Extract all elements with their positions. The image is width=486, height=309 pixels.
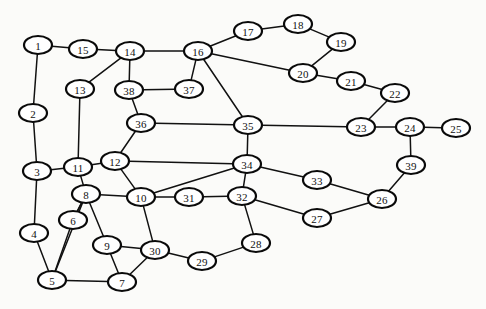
graph-edge	[51, 168, 64, 169]
node-ellipse[interactable]	[127, 188, 155, 206]
node-ellipse[interactable]	[234, 116, 262, 134]
node-ellipse[interactable]	[175, 80, 203, 98]
graph-edge	[389, 173, 405, 191]
node-ellipse[interactable]	[101, 152, 129, 170]
graph-node[interactable]: 6	[59, 211, 87, 229]
graph-edge	[317, 75, 338, 78]
node-ellipse[interactable]	[188, 252, 216, 270]
graph-node[interactable]: 8	[72, 185, 100, 203]
graph-node[interactable]: 32	[228, 187, 256, 205]
node-ellipse[interactable]	[233, 155, 261, 173]
node-ellipse[interactable]	[368, 190, 396, 208]
node-layer: 1234567891011121314151617181920212223242…	[19, 15, 470, 291]
graph-node[interactable]: 16	[184, 42, 212, 60]
node-ellipse[interactable]	[108, 273, 136, 291]
graph-node[interactable]: 36	[127, 114, 155, 132]
node-ellipse[interactable]	[175, 188, 203, 206]
graph-edge	[100, 195, 127, 196]
node-ellipse[interactable]	[19, 104, 47, 122]
node-ellipse[interactable]	[116, 42, 144, 60]
graph-node[interactable]: 9	[93, 236, 121, 254]
graph-edge	[245, 205, 254, 234]
graph-edge	[191, 60, 196, 80]
node-ellipse[interactable]	[242, 234, 270, 252]
graph-node[interactable]: 30	[141, 241, 169, 259]
graph-node[interactable]: 7	[108, 273, 136, 291]
graph-node[interactable]: 25	[442, 119, 470, 137]
graph-edge	[66, 280, 108, 281]
node-ellipse[interactable]	[234, 22, 262, 40]
graph-edge	[89, 58, 121, 82]
graph-node[interactable]: 12	[101, 152, 129, 170]
graph-node[interactable]: 22	[381, 84, 409, 102]
graph-edge	[34, 122, 37, 162]
graph-node[interactable]: 11	[64, 158, 92, 176]
graph-node[interactable]: 35	[234, 116, 262, 134]
graph-node[interactable]: 14	[116, 42, 144, 60]
graph-edge	[255, 200, 305, 215]
graph-edge	[247, 134, 248, 155]
graph-node[interactable]: 21	[337, 72, 365, 90]
graph-node[interactable]: 4	[20, 224, 48, 242]
graph-node[interactable]: 23	[347, 118, 375, 136]
graph-node[interactable]: 15	[69, 40, 97, 58]
graph-node[interactable]: 31	[175, 188, 203, 206]
graph-node[interactable]: 2	[19, 104, 47, 122]
node-ellipse[interactable]	[303, 171, 331, 189]
graph-node[interactable]: 1	[24, 36, 52, 54]
graph-node[interactable]: 29	[188, 252, 216, 270]
node-ellipse[interactable]	[66, 80, 94, 98]
node-ellipse[interactable]	[93, 236, 121, 254]
node-ellipse[interactable]	[127, 114, 155, 132]
graph-node[interactable]: 34	[233, 155, 261, 173]
node-ellipse[interactable]	[115, 81, 143, 99]
node-ellipse[interactable]	[442, 119, 470, 137]
graph-edge	[132, 99, 138, 114]
graph-node[interactable]: 26	[368, 190, 396, 208]
graph-node[interactable]: 18	[284, 15, 312, 33]
node-ellipse[interactable]	[64, 158, 92, 176]
graph-node[interactable]: 28	[242, 234, 270, 252]
graph-node[interactable]: 33	[303, 171, 331, 189]
node-ellipse[interactable]	[303, 209, 331, 227]
node-ellipse[interactable]	[24, 36, 52, 54]
node-ellipse[interactable]	[396, 118, 424, 136]
node-ellipse[interactable]	[59, 211, 87, 229]
node-ellipse[interactable]	[347, 118, 375, 136]
graph-edge	[410, 136, 411, 156]
graph-node[interactable]: 5	[38, 271, 66, 289]
node-ellipse[interactable]	[381, 84, 409, 102]
node-ellipse[interactable]	[69, 40, 97, 58]
node-ellipse[interactable]	[72, 185, 100, 203]
graph-node[interactable]: 13	[66, 80, 94, 98]
graph-node[interactable]: 3	[23, 162, 51, 180]
node-ellipse[interactable]	[38, 271, 66, 289]
node-ellipse[interactable]	[289, 64, 317, 82]
graph-edge	[143, 89, 175, 90]
graph-edge	[81, 176, 84, 185]
graph-node[interactable]: 19	[327, 33, 355, 51]
graph-edge	[78, 98, 80, 158]
node-ellipse[interactable]	[228, 187, 256, 205]
node-ellipse[interactable]	[327, 33, 355, 51]
node-ellipse[interactable]	[397, 156, 425, 174]
graph-node[interactable]: 20	[289, 64, 317, 82]
graph-edge	[364, 85, 382, 90]
graph-node[interactable]: 39	[397, 156, 425, 174]
graph-node[interactable]: 27	[303, 209, 331, 227]
graph-node[interactable]: 10	[127, 188, 155, 206]
graph-edge	[121, 169, 135, 189]
node-ellipse[interactable]	[184, 42, 212, 60]
graph-node[interactable]: 37	[175, 80, 203, 98]
node-ellipse[interactable]	[284, 15, 312, 33]
graph-node[interactable]: 17	[234, 22, 262, 40]
node-ellipse[interactable]	[141, 241, 169, 259]
node-ellipse[interactable]	[337, 72, 365, 90]
graph-edge	[260, 167, 304, 177]
node-ellipse[interactable]	[23, 162, 51, 180]
node-ellipse[interactable]	[20, 224, 48, 242]
graph-node[interactable]: 24	[396, 118, 424, 136]
graph-edge	[369, 101, 388, 120]
graph-edge	[90, 203, 104, 237]
graph-node[interactable]: 38	[115, 81, 143, 99]
